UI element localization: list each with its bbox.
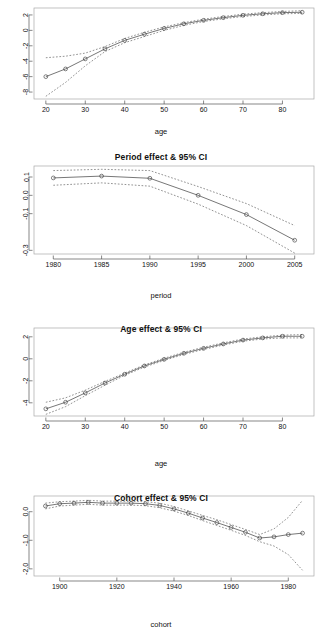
x-axis-tick-label: 2000: [239, 261, 255, 268]
y-axis-tick-label: 0: [23, 357, 30, 361]
panel-1-age-effect-top: 20-2-4-6-820304050607080 age: [0, 0, 322, 148]
ci-band-line: [46, 11, 302, 58]
y-axis-tick-label: -0.1: [23, 208, 30, 220]
y-axis-tick-label: 2: [23, 335, 30, 339]
x-axis-tick-label: 1940: [166, 583, 182, 590]
panel-3-plot-area: 20-2-420304050607080: [0, 322, 322, 442]
panel-3-age-effect: Age effect & 95% CI 20-2-420304050607080…: [0, 322, 322, 474]
y-axis-tick-label: -8: [23, 89, 30, 95]
estimate-line: [46, 336, 302, 409]
panel-4-cohort-effect: Cohort effect & 95% CI 0.0-1.0-2.0190019…: [0, 490, 322, 631]
x-axis-tick-label: 1900: [52, 583, 68, 590]
x-axis-tick-label: 2005: [287, 261, 303, 268]
panel-4-plot-area: 0.0-1.0-2.019001920194019601980: [0, 490, 322, 602]
y-axis-tick-label: -2.0: [23, 563, 30, 575]
y-axis-tick-label: 0.0: [23, 507, 30, 517]
x-axis-tick-label: 40: [121, 423, 129, 430]
x-axis-tick-label: 30: [81, 423, 89, 430]
y-axis-tick-label: 2: [23, 13, 30, 17]
y-axis-tick-label: 0: [23, 28, 30, 32]
panel-2-title: Period effect & 95% CI: [0, 152, 322, 162]
y-axis-tick-label: -0.3: [23, 244, 30, 256]
panel-3-title: Age effect & 95% CI: [0, 324, 322, 334]
data-point-marker: [44, 407, 48, 411]
y-axis-tick-label: 0.0: [23, 190, 30, 200]
ci-band-line: [46, 338, 302, 414]
x-axis-tick-label: 70: [239, 106, 247, 113]
x-axis-tick-label: 1990: [142, 261, 158, 268]
x-axis-tick-label: 1920: [109, 583, 125, 590]
panel-3-xlabel: age: [0, 459, 322, 468]
panel-2-period-effect: Period effect & 95% CI 0.10.0-0.1-0.3198…: [0, 158, 322, 306]
ci-band-line: [53, 169, 294, 225]
x-axis-tick-label: 80: [279, 423, 287, 430]
x-axis-tick-label: 20: [42, 423, 50, 430]
x-axis-tick-label: 20: [42, 106, 50, 113]
y-axis-tick-label: -6: [23, 73, 30, 79]
x-axis-tick-label: 50: [160, 423, 168, 430]
y-axis-tick-label: -1.0: [23, 534, 30, 546]
plot-frame: [34, 8, 314, 99]
y-axis-tick-label: -4: [23, 400, 30, 406]
x-axis-tick-label: 30: [81, 106, 89, 113]
estimate-line: [53, 176, 294, 240]
panel-2-xlabel: period: [0, 291, 322, 300]
panel-1-plot-area: 20-2-4-6-820304050607080: [0, 0, 322, 125]
x-axis-tick-label: 70: [239, 423, 247, 430]
y-axis-tick-label: -2: [23, 43, 30, 49]
x-axis-tick-label: 60: [200, 106, 208, 113]
x-axis-tick-label: 1960: [223, 583, 239, 590]
x-axis-tick-label: 1985: [94, 261, 110, 268]
y-axis-tick-label: -4: [23, 58, 30, 64]
x-axis-tick-label: 60: [200, 423, 208, 430]
panel-1-xlabel: age: [0, 127, 322, 136]
x-axis-tick-label: 50: [160, 106, 168, 113]
estimate-line: [45, 502, 302, 538]
x-axis-tick-label: 80: [279, 106, 287, 113]
panel-4-xlabel: cohort: [0, 620, 322, 629]
x-axis-tick-label: 40: [121, 106, 129, 113]
plot-frame: [34, 328, 314, 416]
ci-band-line: [46, 335, 302, 403]
y-axis-tick-label: -2: [23, 378, 30, 384]
y-axis-tick-label: 0.1: [23, 172, 30, 182]
panel-4-title: Cohort effect & 95% CI: [0, 493, 322, 503]
x-axis-tick-label: 1980: [46, 261, 62, 268]
panel-2-plot-area: 0.10.0-0.1-0.3198019851990199520002005: [0, 158, 322, 280]
ci-band-line: [53, 183, 294, 253]
ci-band-line: [45, 500, 302, 534]
plot-frame: [34, 166, 314, 254]
x-axis-tick-label: 1995: [190, 261, 206, 268]
x-axis-tick-label: 1980: [280, 583, 296, 590]
